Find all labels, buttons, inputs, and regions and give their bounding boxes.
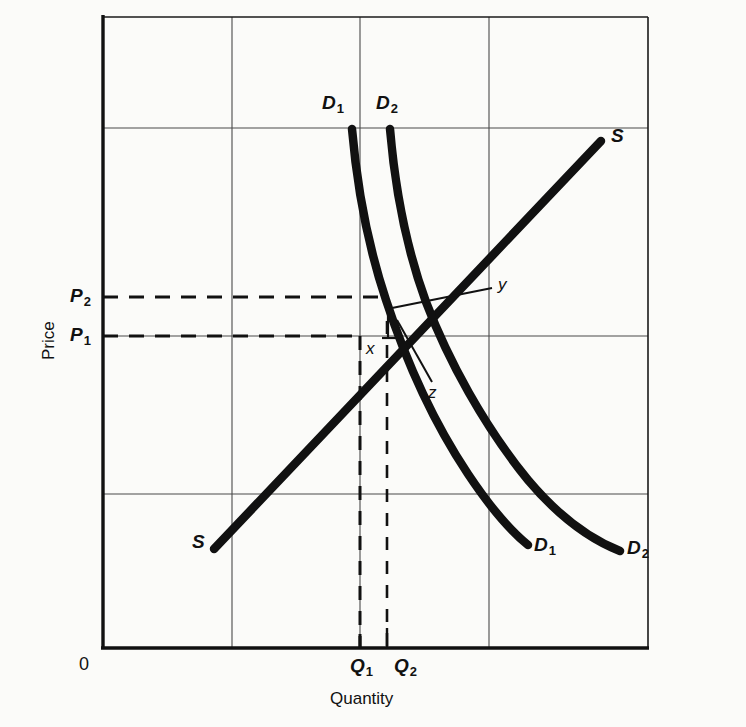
price2-tick-label: P2 (70, 286, 91, 308)
supply-demand-chart-svg (0, 0, 746, 727)
demand-curve-2 (390, 129, 620, 551)
price-axis-title: Price (40, 321, 57, 360)
annotation-x-label: x (366, 340, 375, 357)
reference-lines (103, 297, 387, 648)
annotation-z-label: z (428, 384, 437, 401)
quantity1-tick-label: Q1 (350, 656, 373, 678)
quantity2-tick-label: Q2 (394, 656, 417, 678)
supply-top-label: S (611, 126, 624, 145)
demand2-bottom-label: D2 (627, 538, 649, 560)
economics-supply-demand-figure: D1 D2 S S D1 D2 P2 P1 Q1 Q2 x y (0, 0, 746, 727)
quantity-axis-title: Quantity (330, 690, 393, 707)
demand1-top-label: D1 (322, 93, 344, 115)
annotation-y-label: y (498, 276, 507, 293)
supply-bottom-label: S (192, 532, 205, 551)
supply-curve (214, 141, 601, 549)
demand1-bottom-label: D1 (534, 535, 556, 557)
x-axis-ticks (360, 628, 387, 648)
price1-tick-label: P1 (70, 325, 91, 347)
origin-label: 0 (79, 655, 89, 673)
demand2-top-label: D2 (376, 93, 398, 115)
axes (101, 15, 649, 649)
